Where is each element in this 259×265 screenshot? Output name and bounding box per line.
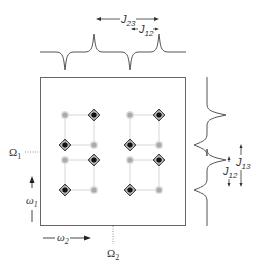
peak-connections bbox=[65, 115, 159, 190]
light-peak bbox=[126, 111, 134, 119]
Omega1-marker: Ω1 bbox=[9, 146, 40, 161]
j13-label: J13 bbox=[235, 156, 251, 171]
dark-peak bbox=[153, 109, 165, 121]
j23-arrow: J23 bbox=[96, 13, 159, 28]
Omega2-label: Ω2 bbox=[107, 247, 119, 262]
cross-peaks bbox=[59, 109, 165, 196]
dark-peak bbox=[153, 154, 165, 166]
nmr-diagram: J23 J12 bbox=[0, 0, 259, 265]
omega2-axis: ω2 bbox=[43, 231, 91, 246]
omega1-label: ω1 bbox=[26, 194, 38, 209]
omega2-label: ω2 bbox=[57, 231, 69, 246]
light-peak bbox=[90, 186, 98, 194]
light-peak bbox=[126, 156, 134, 164]
j13-arrow: J13 bbox=[235, 144, 251, 187]
spectrum-frame bbox=[41, 78, 186, 226]
dark-peak bbox=[59, 139, 71, 151]
light-peak bbox=[61, 156, 69, 164]
light-peak bbox=[90, 141, 98, 149]
j12-top-label: J12 bbox=[138, 23, 154, 38]
light-peak bbox=[61, 111, 69, 119]
dark-peak bbox=[124, 139, 136, 151]
j23-label: J23 bbox=[120, 13, 136, 28]
dark-peak bbox=[124, 184, 136, 196]
dark-peak bbox=[59, 184, 71, 196]
light-peak bbox=[155, 141, 163, 149]
omega1-axis: ω1 bbox=[26, 176, 38, 222]
dark-peak bbox=[88, 109, 100, 121]
dark-peak bbox=[88, 154, 100, 166]
top-spectrum-trace bbox=[40, 34, 186, 70]
light-peak bbox=[155, 186, 163, 194]
side-spectrum-trace bbox=[194, 77, 226, 226]
Omega2-marker: Ω2 bbox=[107, 226, 119, 262]
Omega1-label: Ω1 bbox=[9, 146, 21, 161]
